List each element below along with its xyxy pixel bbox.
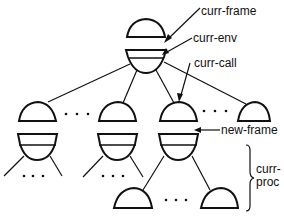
child-node-1: [4, 102, 62, 176]
curr-frame-label: curr-frame: [201, 5, 256, 17]
root-node: [126, 19, 166, 73]
curr-env-arrow: [167, 38, 192, 52]
curr-proc-label-1: curr-: [256, 163, 281, 175]
child-node-3: [143, 102, 210, 190]
curr-call-label: curr-call: [194, 57, 237, 69]
curr-call-arrow: [181, 63, 190, 95]
child-node-2: [83, 102, 143, 177]
child-node-4: [238, 102, 270, 121]
pointer-arrows: [162, 8, 220, 133]
curr-proc-label-2: proc: [256, 176, 279, 188]
env-bowl: [126, 50, 166, 73]
curr-env-label: curr-env: [193, 32, 237, 44]
ellipsis-dots: [23, 110, 228, 202]
frame-dome: [127, 19, 165, 37]
new-frame-label: new-frame: [221, 124, 278, 136]
grandchild-node-1: [114, 188, 152, 208]
frame-tree-diagram: [0, 0, 284, 218]
curr-proc-brace: [246, 145, 254, 211]
grandchild-node-2: [201, 188, 238, 208]
